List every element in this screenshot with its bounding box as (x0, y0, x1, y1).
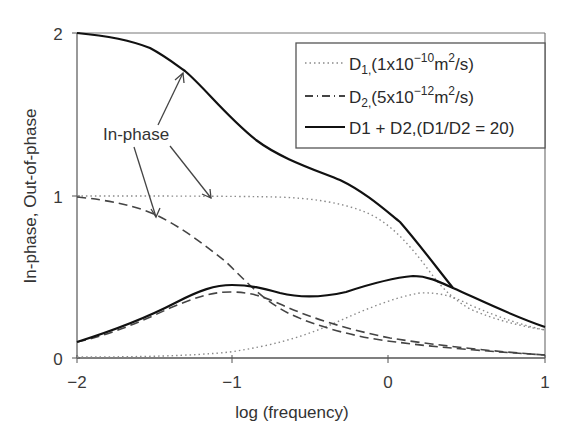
d1-in-phase-curve (77, 196, 545, 330)
x-axis-label: log (frequency) (235, 403, 348, 422)
in-phase-label: In-phase (103, 125, 169, 144)
d1d2-out-of-phase-curve (77, 276, 453, 342)
xtick-label--2: −2 (67, 373, 86, 392)
arrow-to-d1 (170, 146, 211, 198)
y-axis-label: In-phase, Out-of-phase (21, 109, 40, 284)
xtick-label--1: −1 (222, 373, 241, 392)
xtick-label-0: 0 (383, 373, 392, 392)
arrow-to-d1d2 (158, 73, 183, 125)
series-d2-dashed (77, 197, 545, 355)
legend: D1,(1x10−10m2/s) D2,(5x10−12m2/s) D1 + D… (296, 43, 545, 148)
d1-out-of-phase-curve (77, 293, 545, 357)
legend-label-d1d2: D1 + D2,(D1/D2 = 20) (349, 119, 514, 138)
chart: 2 1 0 −2 −1 0 1 log (frequency) In-phase… (0, 0, 570, 448)
arrow-to-d2 (134, 147, 156, 217)
ytick-label-1: 1 (53, 188, 62, 207)
d2-in-phase-curve (77, 197, 545, 355)
ytick-label-0: 0 (53, 350, 62, 369)
xtick-label-1: 1 (540, 373, 549, 392)
ytick-label-2: 2 (53, 25, 62, 44)
series-d1-dotted (77, 196, 545, 357)
in-phase-annotation: In-phase (103, 73, 211, 217)
d2-out-of-phase-curve (77, 292, 545, 355)
